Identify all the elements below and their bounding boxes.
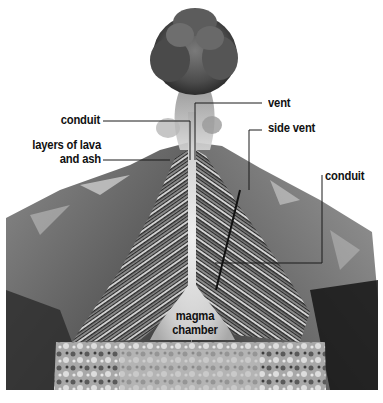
label-magma-line2: chamber [164,324,227,337]
label-conduit-right: conduit [325,170,364,183]
volcano-illustration [0,0,383,403]
label-vent: vent [268,97,290,110]
ash-cloud [150,8,238,150]
label-layers-line2: and ash [19,153,101,166]
label-side-vent: side vent [268,122,315,135]
volcano-diagram: conduit vent layers of lava and ash side… [0,0,383,403]
label-conduit-top: conduit [44,114,100,127]
label-layers-line1: layers of lava [19,139,101,152]
label-magma-line1: magma [168,310,222,323]
